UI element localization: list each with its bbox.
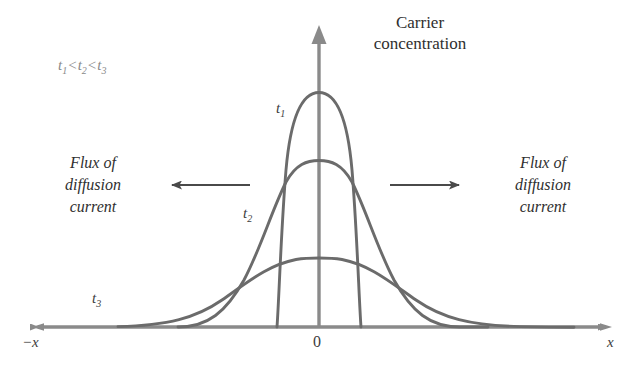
flux-left-line3: current <box>70 198 117 215</box>
flux-label-left: Flux of diffusion current <box>28 152 158 218</box>
chart-title-line2: concentration <box>374 34 467 53</box>
flux-left-line1: Flux of <box>70 154 116 171</box>
curve-t3 <box>118 258 574 327</box>
condition-t2: t2 <box>78 57 87 73</box>
curve-label-t2: t2 <box>243 205 252 224</box>
flux-right-line1: Flux of <box>520 154 566 171</box>
x-axis-left-arrowhead <box>32 323 44 331</box>
time-ordering-condition: t1<t2<t3 <box>58 57 106 76</box>
condition-operator-1: < <box>67 57 77 73</box>
x-axis-origin-label: 0 <box>313 333 321 351</box>
x-axis-negative-label: −x <box>22 334 39 351</box>
curve-label-t1: t1 <box>276 100 285 119</box>
condition-t1: t1 <box>58 57 67 73</box>
y-axis-arrowhead <box>312 25 327 44</box>
flux-right-line3: current <box>520 198 567 215</box>
flux-left-line2: diffusion <box>65 176 121 193</box>
curve-label-t3: t3 <box>92 290 101 309</box>
chart-title: Carrier concentration <box>335 12 505 54</box>
x-axis-positive-label: x <box>607 334 614 351</box>
condition-t3: t3 <box>97 57 106 73</box>
x-axis-right-arrowhead <box>600 323 612 331</box>
chart-title-line1: Carrier <box>396 13 444 32</box>
condition-operator-2: < <box>87 57 97 73</box>
flux-right-line2: diffusion <box>515 176 571 193</box>
flux-label-right: Flux of diffusion current <box>478 152 608 218</box>
